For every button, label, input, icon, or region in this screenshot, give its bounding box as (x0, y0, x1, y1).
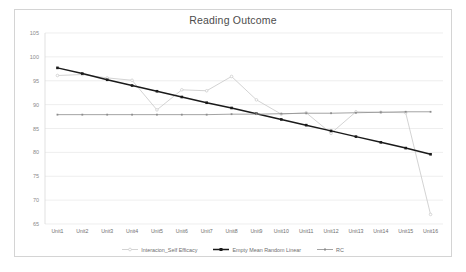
data-point (106, 114, 108, 116)
data-point (81, 114, 83, 116)
y-tick-label: 85 (17, 126, 39, 132)
data-point (380, 111, 382, 113)
legend-swatch-icon (317, 246, 333, 253)
chart-legend: Interacion_Self EfficacyEmpty Mean Rando… (15, 246, 451, 253)
y-tick-label: 65 (17, 221, 39, 227)
data-point (206, 114, 208, 116)
y-tick-label: 95 (17, 78, 39, 84)
legend-swatch-icon (213, 246, 229, 253)
data-point (330, 130, 333, 133)
data-point (330, 132, 333, 135)
legend-item[interactable]: Interacion_Self Efficacy (122, 246, 197, 253)
data-point (230, 75, 233, 78)
data-point (156, 90, 159, 93)
legend-item[interactable]: Empty Mean Random Linear (213, 246, 301, 253)
legend-label: Empty Mean Random Linear (232, 247, 301, 253)
data-point (81, 72, 84, 75)
y-tick-label: 90 (17, 102, 39, 108)
data-point (305, 112, 307, 114)
legend-label: RC (336, 247, 344, 253)
legend-swatch-icon (122, 246, 138, 253)
y-tick-label: 100 (17, 54, 39, 60)
chart-plot-area (15, 10, 451, 256)
data-point (230, 107, 233, 110)
data-point (181, 114, 183, 116)
data-point (131, 79, 134, 82)
data-point (205, 89, 208, 92)
legend-label: Interacion_Self Efficacy (141, 247, 197, 253)
data-point (355, 112, 357, 114)
y-tick-label: 80 (17, 149, 39, 155)
data-point (231, 113, 233, 115)
data-point (131, 84, 134, 87)
data-point (404, 147, 407, 150)
series-0 (56, 73, 432, 216)
data-point (405, 111, 407, 113)
data-point (305, 124, 308, 127)
data-point (280, 113, 282, 115)
series-line (57, 112, 430, 115)
data-point (205, 101, 208, 104)
data-point (330, 112, 332, 114)
data-point (56, 67, 59, 70)
series-1 (56, 67, 432, 156)
series-line (57, 75, 430, 215)
data-point (106, 78, 109, 81)
data-point (280, 118, 283, 121)
data-point (380, 141, 383, 144)
chart-plot-frame: Reading Outcome 65707580859095100105 Uni… (14, 9, 452, 257)
data-point (256, 113, 258, 115)
data-point (255, 99, 258, 102)
data-point (56, 74, 59, 77)
data-point (355, 135, 358, 138)
chart-container: Reading Outcome 65707580859095100105 Uni… (0, 0, 466, 272)
y-tick-label: 70 (17, 197, 39, 203)
legend-item[interactable]: RC (317, 246, 344, 253)
data-point (181, 96, 184, 99)
data-point (429, 213, 432, 216)
data-point (156, 109, 159, 112)
data-point (430, 111, 432, 113)
data-point (57, 114, 59, 116)
data-point (429, 153, 432, 156)
x-tick-label: Unit16 (414, 228, 448, 234)
data-point (181, 89, 184, 92)
data-point (156, 114, 158, 116)
y-tick-label: 105 (17, 30, 39, 36)
y-tick-label: 75 (17, 173, 39, 179)
data-point (131, 114, 133, 116)
